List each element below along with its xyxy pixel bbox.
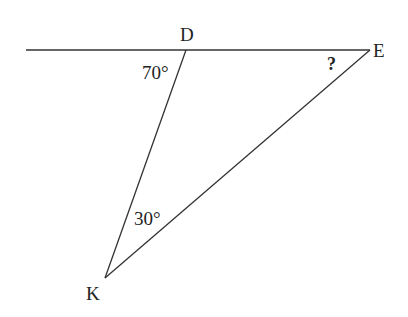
angle-label-k: 30° — [134, 208, 161, 229]
angle-label-e: ? — [327, 54, 336, 74]
triangle-diagram: D E K 70° ? 30° — [0, 0, 408, 317]
segment-ke — [105, 50, 370, 278]
vertex-label-k: K — [86, 283, 100, 304]
vertex-label-e: E — [373, 40, 385, 61]
vertex-label-d: D — [180, 24, 194, 45]
angle-label-d: 70° — [142, 62, 169, 83]
